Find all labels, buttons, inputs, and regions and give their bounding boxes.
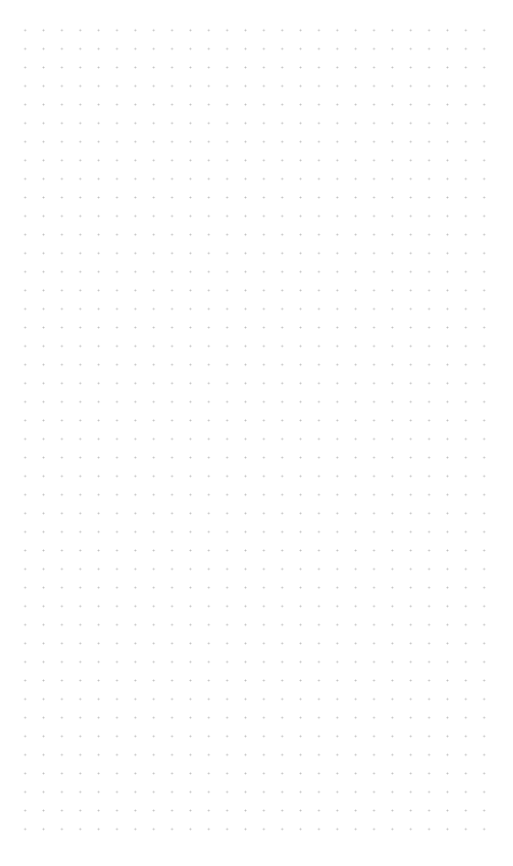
dot-grid-background	[16, 21, 486, 831]
drawing-canvas[interactable]	[0, 0, 513, 866]
